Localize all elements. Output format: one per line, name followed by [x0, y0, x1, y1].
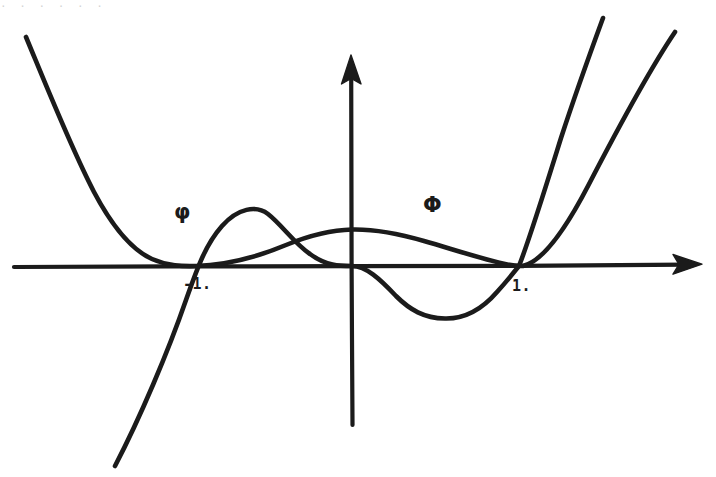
y-axis-line [351, 72, 352, 425]
x-axis [14, 255, 702, 275]
x-tick-label-negative-one: -1. [183, 275, 212, 293]
curve-label-phi-upper: Φ [423, 192, 442, 217]
curve-label-phi-lower: φ [174, 200, 190, 224]
y-axis [342, 55, 362, 425]
figure-canvas: . . . . . . φ Φ -1. 1. [0, 0, 716, 477]
curve-phi-lower [115, 18, 603, 466]
plot-svg [0, 0, 716, 477]
x-tick-label-positive-one: 1. [512, 277, 531, 295]
